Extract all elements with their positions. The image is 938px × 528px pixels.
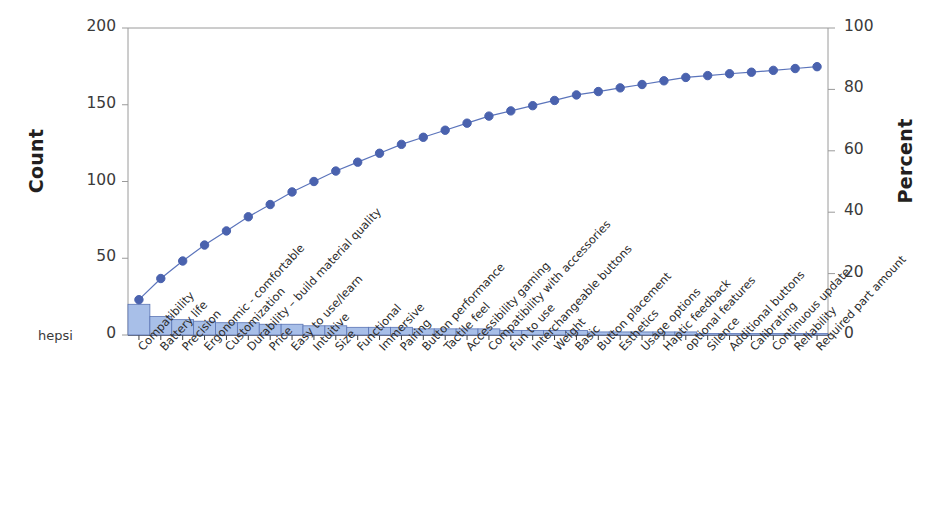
line-marker [310, 177, 318, 185]
y-axis-left-tick: 200 [70, 17, 116, 35]
y-axis-right-tick: 100 [844, 17, 890, 35]
y-axis-left-tick: 0 [70, 324, 116, 342]
line-marker [747, 68, 755, 76]
corner-note-label: hepsi [38, 328, 73, 343]
y-axis-right-tick: 40 [844, 201, 890, 219]
line-marker [660, 77, 668, 85]
pareto-chart: Count Percent hepsi 05010015020002040608… [0, 0, 938, 528]
line-marker [200, 241, 208, 249]
line-marker [288, 188, 296, 196]
y-axis-right-tick: 80 [844, 78, 890, 96]
cumulative-line [139, 67, 817, 300]
line-marker [725, 70, 733, 78]
line-marker [769, 66, 777, 74]
line-marker [222, 227, 230, 235]
line-marker [616, 84, 624, 92]
y-axis-right-tick: 0 [844, 324, 890, 342]
line-marker [791, 64, 799, 72]
line-marker [419, 133, 427, 141]
plot-area [0, 0, 938, 528]
line-marker [485, 112, 493, 120]
line-marker [441, 126, 449, 134]
line-marker [638, 80, 646, 88]
line-marker [550, 96, 558, 104]
y-axis-right-title: Percent [894, 101, 916, 221]
y-axis-right-tick: 60 [844, 140, 890, 158]
line-marker [157, 274, 165, 282]
line-marker [594, 87, 602, 95]
line-marker [244, 213, 252, 221]
line-marker [703, 71, 711, 79]
line-marker [507, 107, 515, 115]
line-marker [375, 149, 383, 157]
y-axis-left-tick: 50 [70, 247, 116, 265]
line-marker [135, 295, 143, 303]
cumulative-line-markers [135, 62, 822, 303]
line-marker [266, 200, 274, 208]
line-marker [813, 62, 821, 70]
line-marker [397, 140, 405, 148]
cumulative-line-series [139, 67, 817, 300]
line-marker [528, 101, 536, 109]
y-axis-left-title: Count [25, 101, 47, 221]
line-marker [332, 167, 340, 175]
line-marker [572, 91, 580, 99]
y-axis-left-tick: 150 [70, 94, 116, 112]
line-marker [682, 73, 690, 81]
y-axis-left-tick: 100 [70, 171, 116, 189]
line-marker [463, 119, 471, 127]
line-marker [353, 158, 361, 166]
line-marker [178, 257, 186, 265]
